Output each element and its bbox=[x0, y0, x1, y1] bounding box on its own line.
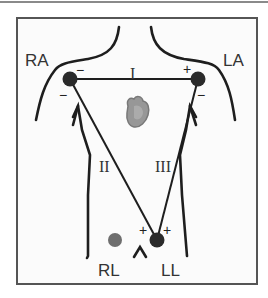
lead-label-I: I bbox=[130, 65, 135, 82]
sign-RA-lead-II-minus: − bbox=[59, 87, 67, 103]
label-LA: LA bbox=[223, 51, 244, 70]
sign-LL-lead-III-plus: + bbox=[163, 222, 171, 238]
sign-RA-lead-I-minus: − bbox=[76, 62, 84, 78]
sign-LA-lead-I-plus: + bbox=[183, 61, 191, 77]
electrode-LA bbox=[191, 72, 206, 87]
label-RL: RL bbox=[98, 261, 120, 280]
right-torso-outline bbox=[73, 106, 90, 258]
left-torso-outline bbox=[180, 106, 196, 256]
electrode-RL bbox=[108, 233, 122, 247]
body-outline bbox=[36, 27, 235, 258]
heart-icon bbox=[127, 97, 149, 128]
einthoven-diagram: RA LA LL RL I II III − − + − + + bbox=[0, 0, 268, 298]
label-RA: RA bbox=[25, 51, 49, 70]
sign-LA-lead-III-minus: − bbox=[197, 87, 205, 103]
lead-label-III: III bbox=[155, 158, 171, 175]
sign-LL-lead-II-plus: + bbox=[139, 222, 147, 238]
navel-mark bbox=[134, 247, 146, 257]
lead-label-II: II bbox=[99, 158, 110, 175]
label-LL: LL bbox=[161, 261, 180, 280]
